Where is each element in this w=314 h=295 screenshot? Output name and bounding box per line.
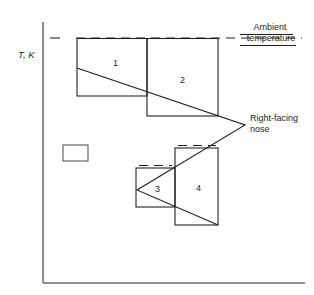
- region-label-4: 4: [196, 183, 201, 194]
- region-label-2: 2: [180, 75, 185, 86]
- region-label-3: 3: [155, 184, 160, 195]
- right-facing-nose-label-line1: Right-facing: [250, 113, 312, 124]
- ambient-temperature-label-line1: Ambient: [240, 22, 300, 33]
- region-label-1: 1: [113, 58, 118, 69]
- right-facing-nose-label-line2: nose: [250, 124, 312, 135]
- diagram-canvas: [0, 0, 314, 295]
- profile-polyline: [77, 68, 245, 225]
- region-box-1-rect: [77, 39, 147, 97]
- figure-container: T, K Ambient temperature Right-facing no…: [0, 0, 314, 295]
- empty-legend-box: [63, 145, 88, 161]
- region-box-1: [77, 39, 147, 97]
- ambient-temperature-label-line2: temperature: [238, 33, 304, 44]
- temperature-profile-curve: [77, 68, 245, 225]
- y-axis-label: T, K: [18, 49, 35, 60]
- empty-legend-box-group: [63, 145, 88, 161]
